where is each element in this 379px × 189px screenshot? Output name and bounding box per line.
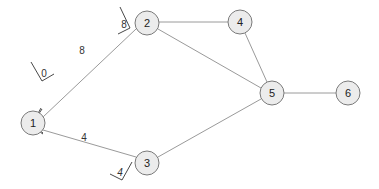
edge-3-5 — [158, 99, 261, 157]
node-4-label: 4 — [237, 16, 243, 28]
node-3-label: 3 — [144, 157, 150, 169]
edge-1-2-end-label: 8 — [121, 19, 127, 30]
node-6-label: 6 — [345, 87, 351, 99]
graph-canvas: 0 8 8 0 4 4 1 2 3 4 5 6 — [0, 0, 379, 189]
node-5-label: 5 — [269, 87, 275, 99]
edge-1-2-weight-label: 8 — [79, 45, 85, 56]
node-1[interactable]: 1 — [21, 111, 45, 135]
edge-1-2 — [43, 29, 136, 117]
node-2[interactable]: 2 — [135, 11, 159, 35]
node-3[interactable]: 3 — [135, 151, 159, 175]
node-1-label: 1 — [30, 117, 36, 129]
edge-4-5 — [245, 33, 267, 82]
node-6[interactable]: 6 — [336, 81, 360, 105]
node-5[interactable]: 5 — [260, 81, 284, 105]
edge-1-3-end-label: 4 — [117, 167, 123, 178]
edge-1-3 — [43, 130, 136, 157]
edge-2-5 — [158, 29, 261, 88]
node-4[interactable]: 4 — [228, 10, 252, 34]
edge-1-3-weight-label: 4 — [81, 132, 87, 143]
edge-1-2-start-label: 0 — [41, 68, 47, 79]
node-2-label: 2 — [144, 17, 150, 29]
